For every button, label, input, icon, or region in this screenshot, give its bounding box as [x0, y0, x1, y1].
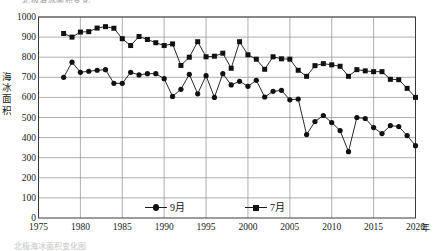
data-point-marker: [95, 68, 100, 73]
data-point-marker: [270, 89, 275, 94]
data-point-marker: [245, 84, 250, 89]
data-point-marker: [329, 62, 334, 67]
data-point-marker: [195, 39, 200, 44]
legend-marker-circle-icon: [145, 203, 167, 213]
data-point-marker: [363, 116, 368, 121]
data-point-marker: [103, 24, 108, 29]
data-point-marker: [304, 132, 309, 137]
data-point-marker: [220, 51, 225, 56]
data-point-marker: [61, 31, 66, 36]
data-point-marker: [178, 63, 183, 68]
data-point-marker: [405, 86, 410, 91]
data-point-marker: [237, 79, 242, 84]
plot-area: [0, 0, 434, 251]
data-point-marker: [396, 77, 401, 82]
data-point-marker: [279, 88, 284, 93]
data-point-marker: [338, 64, 343, 69]
data-point-marker: [346, 74, 351, 79]
data-point-marker: [321, 61, 326, 66]
legend-square-icon: [253, 205, 259, 211]
legend-marker-square-icon: [245, 203, 267, 213]
data-point-marker: [70, 35, 75, 40]
data-point-marker: [245, 52, 250, 57]
data-point-marker: [187, 72, 192, 77]
data-point-marker: [220, 71, 225, 76]
data-point-marker: [162, 43, 167, 48]
data-point-marker: [103, 67, 108, 72]
data-point-marker: [296, 96, 301, 101]
data-point-marker: [379, 131, 384, 136]
data-point-marker: [296, 68, 301, 73]
legend-label: 9月: [170, 202, 186, 213]
data-point-marker: [287, 97, 292, 102]
data-point-marker: [363, 68, 368, 73]
data-point-marker: [371, 125, 376, 130]
data-point-marker: [396, 124, 401, 129]
data-point-marker: [212, 54, 217, 59]
data-point-marker: [78, 30, 83, 35]
chart-figure: 北极海冰面积变化 海 冰 面 积 01002003004005006007008…: [0, 0, 434, 251]
legend-item-july[interactable]: 7月: [245, 202, 286, 213]
data-point-marker: [346, 149, 351, 154]
data-point-marker: [128, 70, 133, 75]
data-point-marker: [413, 95, 418, 100]
data-point-marker: [153, 71, 158, 76]
data-point-marker: [170, 41, 175, 46]
data-point-marker: [128, 43, 133, 48]
data-point-marker: [338, 128, 343, 133]
data-point-marker: [271, 54, 276, 59]
legend-circle-icon: [153, 204, 160, 211]
data-point-marker: [137, 34, 142, 39]
data-point-marker: [321, 113, 326, 118]
data-point-marker: [145, 71, 150, 76]
data-point-marker: [388, 77, 393, 82]
data-point-marker: [187, 55, 192, 60]
data-point-marker: [120, 36, 125, 41]
data-point-marker: [262, 67, 267, 72]
data-point-marker: [212, 95, 217, 100]
series-line: [64, 62, 416, 151]
data-point-marker: [69, 60, 74, 65]
data-point-marker: [312, 119, 317, 124]
data-point-marker: [95, 26, 100, 31]
data-point-marker: [111, 26, 116, 31]
series-7月: [61, 24, 418, 100]
data-point-marker: [405, 133, 410, 138]
data-point-marker: [145, 37, 150, 42]
data-point-marker: [61, 75, 66, 80]
data-point-marker: [203, 73, 208, 78]
data-point-marker: [195, 91, 200, 96]
data-point-marker: [312, 63, 317, 68]
data-point-marker: [413, 143, 418, 148]
data-point-marker: [120, 81, 125, 86]
data-point-marker: [136, 72, 141, 77]
data-point-marker: [379, 69, 384, 74]
series-9月: [61, 60, 418, 155]
data-point-marker: [254, 78, 259, 83]
data-point-marker: [371, 69, 376, 74]
data-point-marker: [86, 29, 91, 34]
data-point-marker: [86, 69, 91, 74]
figure-caption-fragment: 北极海冰面积变化图: [14, 242, 234, 251]
data-point-marker: [329, 120, 334, 125]
data-point-marker: [111, 81, 116, 86]
data-point-marker: [388, 123, 393, 128]
data-point-marker: [170, 94, 175, 99]
data-point-marker: [229, 82, 234, 87]
legend-item-september[interactable]: 9月: [145, 202, 186, 213]
data-point-marker: [254, 57, 259, 62]
data-point-marker: [153, 40, 158, 45]
data-point-marker: [304, 74, 309, 79]
data-point-marker: [354, 67, 359, 72]
legend-label: 7月: [270, 202, 286, 213]
data-point-marker: [287, 57, 292, 62]
data-point-marker: [237, 39, 242, 44]
data-point-marker: [178, 87, 183, 92]
data-point-marker: [279, 56, 284, 61]
data-point-marker: [229, 66, 234, 71]
data-point-marker: [204, 54, 209, 59]
data-point-marker: [78, 70, 83, 75]
data-point-marker: [354, 115, 359, 120]
data-point-marker: [162, 76, 167, 81]
data-point-marker: [262, 94, 267, 99]
